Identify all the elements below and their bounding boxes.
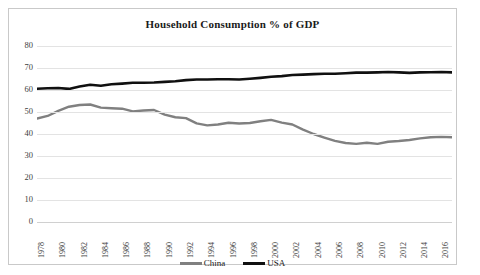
x-tick-label: 2000 bbox=[272, 242, 280, 258]
x-axis-line bbox=[37, 222, 452, 223]
y-tick-label: 40 bbox=[13, 129, 33, 138]
x-tick-label: 1998 bbox=[251, 242, 259, 258]
chart-title: Household Consumption % of GDP bbox=[9, 18, 456, 30]
series-line-usa bbox=[37, 72, 452, 89]
gridline-y-10 bbox=[37, 200, 452, 201]
x-tick-label: 1982 bbox=[81, 242, 89, 258]
y-tick-label: 80 bbox=[13, 41, 33, 50]
x-tick-label: 2008 bbox=[357, 242, 365, 258]
y-axis: 01020304050607080 bbox=[11, 46, 33, 222]
y-tick-label: 30 bbox=[13, 151, 33, 160]
legend-item-china[interactable]: China bbox=[180, 259, 226, 268]
gridline-y-40 bbox=[37, 134, 452, 135]
series-line-china bbox=[37, 105, 452, 144]
gridline-y-70 bbox=[37, 68, 452, 69]
legend-swatch-icon bbox=[243, 262, 265, 265]
x-tick-label: 1988 bbox=[144, 242, 152, 258]
gridline-y-50 bbox=[37, 112, 452, 113]
x-tick-label: 2006 bbox=[336, 242, 344, 258]
x-tick-label: 2010 bbox=[379, 242, 387, 258]
x-tick-label: 1992 bbox=[187, 242, 195, 258]
x-tick-label: 1978 bbox=[38, 242, 46, 258]
x-tick-label: 1990 bbox=[166, 242, 174, 258]
x-tick-label: 2012 bbox=[400, 242, 408, 258]
plot-area bbox=[37, 46, 452, 222]
legend-label: China bbox=[204, 259, 226, 268]
x-tick-label: 1994 bbox=[208, 242, 216, 258]
y-tick-label: 20 bbox=[13, 173, 33, 182]
x-axis: 1978198019821984198619881990199219941996… bbox=[37, 224, 452, 258]
chart-container: Household Consumption % of GDP 010203040… bbox=[8, 8, 457, 265]
legend-item-usa[interactable]: USA bbox=[243, 259, 285, 268]
y-tick-label: 10 bbox=[13, 195, 33, 204]
x-tick-label: 2014 bbox=[421, 242, 429, 258]
y-tick-label: 50 bbox=[13, 107, 33, 116]
x-tick-label: 1986 bbox=[123, 242, 131, 258]
gridline-y-80 bbox=[37, 46, 452, 47]
x-tick-label: 2004 bbox=[315, 242, 323, 258]
gridline-y-60 bbox=[37, 90, 452, 91]
chart-legend: ChinaUSA bbox=[9, 259, 456, 268]
legend-label: USA bbox=[267, 259, 285, 268]
x-tick-label: 1996 bbox=[230, 242, 238, 258]
x-tick-label: 1984 bbox=[102, 242, 110, 258]
legend-swatch-icon bbox=[180, 262, 202, 265]
y-tick-label: 60 bbox=[13, 85, 33, 94]
x-tick-label: 1980 bbox=[59, 242, 67, 258]
gridline-y-30 bbox=[37, 156, 452, 157]
x-tick-label: 2002 bbox=[293, 242, 301, 258]
x-tick-label: 2016 bbox=[442, 242, 450, 258]
gridline-y-20 bbox=[37, 178, 452, 179]
y-tick-label: 0 bbox=[13, 217, 33, 226]
y-tick-label: 70 bbox=[13, 63, 33, 72]
